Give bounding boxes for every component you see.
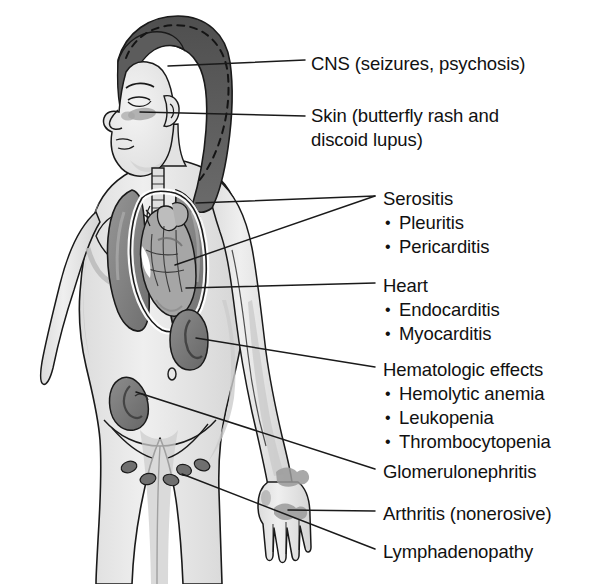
- leader-cns: [168, 60, 305, 66]
- label-hematologic-effects[interactable]: Hematologic effects Hemolytic anemia Leu…: [383, 358, 551, 454]
- label-serositis[interactable]: Serositis Pleuritis Pericarditis: [383, 187, 489, 259]
- label-hematologic-bullets: Hemolytic anemia Leukopenia Thrombocytop…: [383, 382, 551, 454]
- anatomical-illustration: [0, 0, 600, 584]
- label-heart[interactable]: Heart Endocarditis Myocarditis: [383, 274, 500, 346]
- list-item: Hemolytic anemia: [383, 382, 551, 406]
- label-heart-bullets: Endocarditis Myocarditis: [383, 298, 500, 346]
- label-glomerulonephritis[interactable]: Glomerulonephritis: [383, 460, 536, 484]
- label-cns-title: CNS (seizures, psychosis): [311, 52, 525, 76]
- list-item: Pleuritis: [383, 211, 489, 235]
- list-item: Endocarditis: [383, 298, 500, 322]
- label-heart-title: Heart: [383, 274, 500, 298]
- label-cns[interactable]: CNS (seizures, psychosis): [311, 52, 525, 76]
- label-skin-title: Skin (butterfly rash and discoid lupus): [311, 104, 556, 152]
- label-serositis-bullets: Pleuritis Pericarditis: [383, 211, 489, 259]
- label-glomerulonephritis-title: Glomerulonephritis: [383, 460, 536, 484]
- label-arthritis[interactable]: Arthritis (nonerosive): [383, 502, 551, 526]
- list-item: Thrombocytopenia: [383, 430, 551, 454]
- leader-arthritis: [288, 510, 375, 511]
- label-serositis-title: Serositis: [383, 187, 489, 211]
- list-item: Leukopenia: [383, 406, 551, 430]
- label-lymphadenopathy-title: Lymphadenopathy: [383, 540, 533, 564]
- label-lymphadenopathy[interactable]: Lymphadenopathy: [383, 540, 533, 564]
- label-hematologic-title: Hematologic effects: [383, 358, 551, 382]
- label-arthritis-title: Arthritis (nonerosive): [383, 502, 551, 526]
- list-item: Pericarditis: [383, 235, 489, 259]
- label-skin[interactable]: Skin (butterfly rash and discoid lupus): [311, 104, 556, 152]
- list-item: Myocarditis: [383, 322, 500, 346]
- lupus-manifestations-figure: CNS (seizures, psychosis) Skin (butterfl…: [0, 0, 600, 584]
